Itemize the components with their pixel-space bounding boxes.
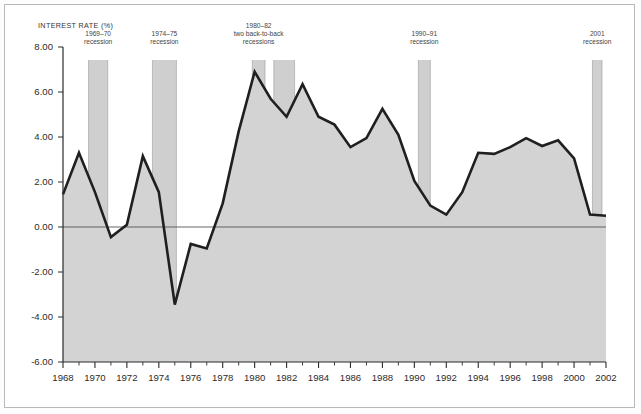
x-tick-label-1976: 1976 bbox=[180, 372, 201, 383]
recession-label-recession-1969-70: 1969–70 bbox=[85, 30, 111, 37]
x-tick-label-1978: 1978 bbox=[212, 372, 233, 383]
x-tick-label-1974: 1974 bbox=[148, 372, 170, 383]
x-tick-label-2000: 2000 bbox=[563, 372, 584, 383]
recession-label-recession-1990-91: recession bbox=[410, 38, 439, 45]
x-tick-label-1970: 1970 bbox=[84, 372, 105, 383]
x-tick-label-1986: 1986 bbox=[340, 372, 361, 383]
interest-rate-chart: 8.006.004.002.000.00-2.00-4.00-6.00 1968… bbox=[0, 0, 641, 414]
recession-label-recession-1969-70: recession bbox=[84, 38, 113, 45]
x-tick-label-1998: 1998 bbox=[531, 372, 552, 383]
y-axis-title: INTEREST RATE (%) bbox=[38, 21, 113, 30]
x-tick-label-2002: 2002 bbox=[595, 372, 616, 383]
recession-label-recession-2001: recession bbox=[583, 38, 612, 45]
x-tick-label-1992: 1992 bbox=[436, 372, 457, 383]
recession-label-recession-1974-75: recession bbox=[150, 38, 179, 45]
x-tick-label-1984: 1984 bbox=[308, 372, 330, 383]
recession-label-recession-2001: 2001 bbox=[590, 30, 605, 37]
chart-svg: 8.006.004.002.000.00-2.00-4.00-6.00 1968… bbox=[0, 0, 641, 414]
x-tick-label-1972: 1972 bbox=[116, 372, 137, 383]
x-tick-label-1968: 1968 bbox=[52, 372, 73, 383]
y-tick-label-4.00: 4.00 bbox=[34, 131, 53, 142]
y-tick-label--6.00: -6.00 bbox=[31, 356, 53, 367]
x-tick-label-1994: 1994 bbox=[468, 372, 490, 383]
x-tick-label-1988: 1988 bbox=[372, 372, 393, 383]
recession-label-recession-1980-82a: recessions bbox=[243, 38, 275, 45]
y-tick-labels-group: 8.006.004.002.000.00-2.00-4.00-6.00 bbox=[31, 41, 53, 367]
x-tick-label-1990: 1990 bbox=[404, 372, 425, 383]
y-tick-label--2.00: -2.00 bbox=[31, 266, 53, 277]
y-tick-label-8.00: 8.00 bbox=[34, 41, 53, 52]
recession-label-recession-1974-75: 1974–75 bbox=[152, 30, 178, 37]
x-tick-labels-group: 1968197019721974197619781980198219841986… bbox=[52, 372, 616, 383]
recession-label-recession-1980-82a: two back-to-back bbox=[234, 30, 285, 37]
y-tick-label--4.00: -4.00 bbox=[31, 311, 53, 322]
recession-label-recession-1990-91: 1990–91 bbox=[411, 30, 437, 37]
recession-annotations-group: 1969–70recession1974–75recession1980–82t… bbox=[84, 22, 612, 45]
y-tick-label-6.00: 6.00 bbox=[34, 86, 53, 97]
recession-label-recession-1980-82a: 1980–82 bbox=[246, 22, 272, 29]
x-tick-label-1980: 1980 bbox=[244, 372, 265, 383]
interest-rate-area bbox=[63, 72, 606, 362]
x-tick-label-1996: 1996 bbox=[500, 372, 521, 383]
y-tick-label-0.00: 0.00 bbox=[34, 221, 53, 232]
x-tick-label-1982: 1982 bbox=[276, 372, 297, 383]
area-fill-group bbox=[63, 72, 606, 362]
y-tick-label-2.00: 2.00 bbox=[34, 176, 53, 187]
